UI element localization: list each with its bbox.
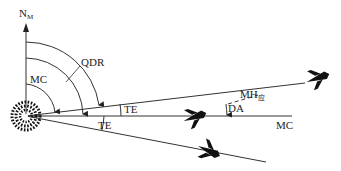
mh-label: MH应 bbox=[240, 89, 265, 102]
da-arc bbox=[226, 104, 227, 115]
da-label: DA bbox=[228, 103, 244, 114]
te-lower-label: TE bbox=[98, 120, 111, 131]
mc-line-label: MC bbox=[276, 120, 293, 131]
lower-track-line bbox=[26, 116, 266, 162]
aircraft-middle-icon bbox=[180, 103, 209, 130]
aircraft-upper-icon bbox=[303, 64, 332, 91]
te-upper-label: TE bbox=[124, 104, 137, 115]
qdr-label: QDR bbox=[81, 57, 104, 68]
mc-arc-label: MC bbox=[30, 74, 47, 85]
aircraft-lower-icon bbox=[194, 137, 224, 165]
te-upper-arc bbox=[120, 104, 121, 116]
diagram-canvas bbox=[0, 0, 341, 171]
north-label: NM bbox=[19, 8, 33, 21]
north-arrow-icon bbox=[23, 23, 29, 32]
qdr-leader bbox=[66, 66, 80, 82]
